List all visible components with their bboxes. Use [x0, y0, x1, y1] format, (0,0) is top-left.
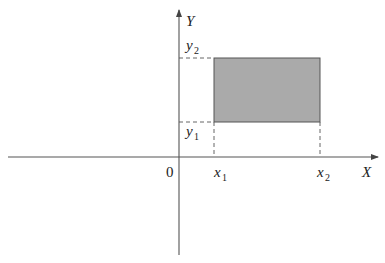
x-axis-label: X — [361, 164, 372, 180]
x2-label: x 2 — [316, 164, 330, 183]
svg-text:1: 1 — [222, 172, 227, 183]
y1-label: y 1 — [184, 123, 199, 142]
y2-label: y 2 — [184, 37, 199, 56]
x1-label: x 1 — [213, 164, 227, 183]
svg-text:y: y — [184, 123, 193, 139]
svg-text:2: 2 — [194, 45, 199, 56]
y-axis-label: Y — [186, 13, 196, 29]
svg-text:1: 1 — [194, 131, 199, 142]
svg-text:y: y — [184, 37, 193, 53]
origin-label: 0 — [166, 164, 174, 180]
svg-text:x: x — [213, 164, 221, 180]
svg-text:2: 2 — [325, 172, 330, 183]
svg-text:x: x — [316, 164, 324, 180]
shaded-region — [214, 58, 320, 122]
coordinate-diagram: Y X 0 y 2 y 1 x 1 x 2 — [0, 0, 385, 263]
